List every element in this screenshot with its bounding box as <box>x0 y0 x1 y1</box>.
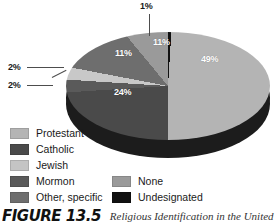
legend-label-protestant: Protestant <box>36 127 84 139</box>
legend-swatch-mormon <box>10 176 29 187</box>
legend-swatch-other-specific <box>10 192 29 203</box>
legend-item-mormon[interactable]: Mormon <box>10 173 103 189</box>
leader-line-mormon <box>27 85 53 86</box>
slice-label-mormon: 2% <box>8 80 21 90</box>
slice-label-none: 11% <box>153 37 170 47</box>
slice-label-catholic: 24% <box>114 87 131 97</box>
slice-label-other-specific: 11% <box>115 48 132 58</box>
leader-line-mormon-diagonal <box>52 70 67 78</box>
pie-face <box>66 32 270 140</box>
slice-label-undesignated: 1% <box>140 1 153 11</box>
pie-slices <box>66 32 270 140</box>
legend-swatch-none <box>112 176 131 187</box>
leader-line-undesignated <box>149 14 150 36</box>
figure-number: FIGURE 13.5 <box>2 207 101 224</box>
legend-label-none: None <box>138 175 163 187</box>
legend-label-undesignated: Undesignated <box>138 191 203 203</box>
figure-caption: FIGURE 13.5 Religious Identification in … <box>2 207 280 224</box>
figure-caption-text: Religious Identification in the United <box>110 210 274 222</box>
legend-swatch-protestant <box>10 128 29 139</box>
legend-label-other-specific: Other, specific <box>36 191 103 203</box>
legend-label-jewish: Jewish <box>36 159 68 171</box>
legend-swatch-undesignated <box>112 192 131 203</box>
legend-item-jewish[interactable]: Jewish <box>10 157 103 173</box>
legend-item-other-specific[interactable]: Other, specific <box>10 189 103 205</box>
legend-item-none[interactable]: None <box>112 173 203 189</box>
legend-label-mormon: Mormon <box>36 175 75 187</box>
legend-item-protestant[interactable]: Protestant <box>10 125 103 141</box>
legend-column-2: None Undesignated <box>112 173 203 205</box>
legend-item-catholic[interactable]: Catholic <box>10 141 103 157</box>
legend-column-1: Protestant Catholic Jewish Mormon Other,… <box>10 125 103 205</box>
figure-container: 49% 24% 11% 11% 1% 2% 2% Protestant Cath… <box>0 0 280 224</box>
leader-line-jewish <box>27 67 64 68</box>
legend-swatch-jewish <box>10 160 29 171</box>
legend-swatch-catholic <box>10 144 29 155</box>
legend-label-catholic: Catholic <box>36 143 74 155</box>
slice-label-protestant: 49% <box>201 54 218 64</box>
legend-item-undesignated[interactable]: Undesignated <box>112 189 203 205</box>
slice-label-jewish: 2% <box>8 62 21 72</box>
